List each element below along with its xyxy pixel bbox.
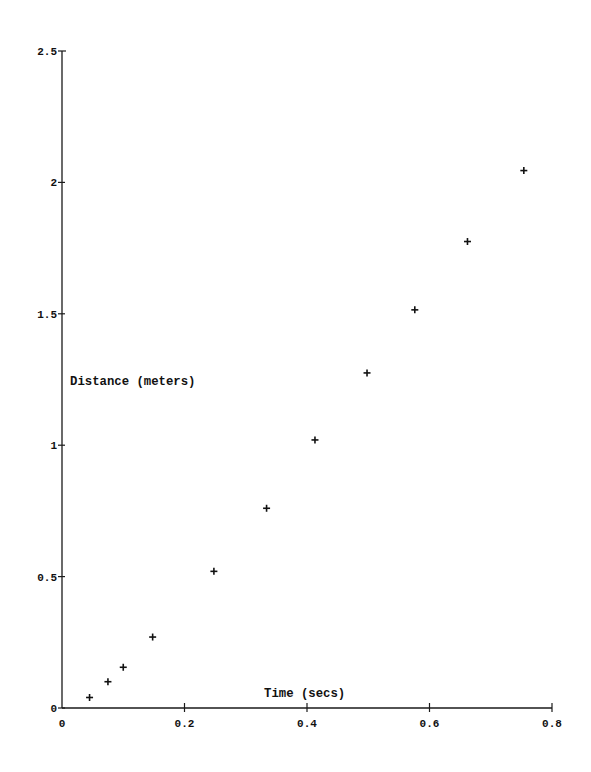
scatter-chart: 00.20.40.60.8 00.511.522.5 Time (secs) D…	[0, 0, 591, 772]
x-tick-label: 0.2	[175, 718, 195, 730]
plus-marker-icon	[149, 634, 156, 641]
y-tick-label: 2	[50, 177, 57, 189]
x-axis-ticks: 00.20.40.60.8	[59, 703, 563, 730]
plus-marker-icon	[263, 505, 270, 512]
plus-marker-icon	[311, 436, 318, 443]
plus-marker-icon	[520, 167, 527, 174]
y-tick-label: 1.5	[37, 309, 57, 321]
x-tick-label: 0.6	[420, 718, 440, 730]
y-axis-title: Distance (meters)	[70, 375, 195, 389]
x-tick-label: 0.8	[542, 718, 562, 730]
plus-marker-icon	[210, 568, 217, 575]
plus-marker-icon	[364, 369, 371, 376]
x-axis-title: Time (secs)	[264, 687, 345, 701]
plus-marker-icon	[104, 678, 111, 685]
plus-marker-icon	[464, 238, 471, 245]
plus-marker-icon	[120, 664, 127, 671]
y-tick-label: 1	[50, 440, 57, 452]
y-tick-label: 0.5	[37, 572, 57, 584]
data-points	[86, 167, 527, 701]
plus-marker-icon	[411, 306, 418, 313]
plus-marker-icon	[86, 694, 93, 701]
x-tick-label: 0.4	[297, 718, 317, 730]
x-tick-label: 0	[59, 718, 66, 730]
y-tick-label: 0	[50, 703, 57, 715]
y-tick-label: 2.5	[37, 46, 57, 58]
